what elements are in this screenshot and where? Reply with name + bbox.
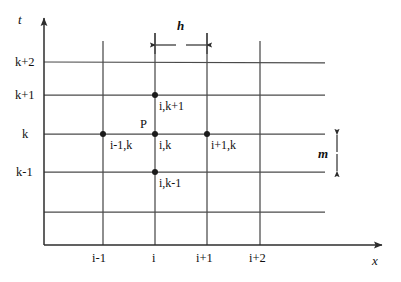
node-label-i-minus-1-k: i-1,k xyxy=(110,139,132,151)
grid-canvas xyxy=(0,0,401,282)
x-tick-i-minus-1: i-1 xyxy=(92,252,106,265)
node-dot-i-minus-1-k xyxy=(100,131,106,137)
node-label-i-plus-1-k: i+1,k xyxy=(211,139,236,151)
node-dot-i-k-plus-1 xyxy=(152,92,158,98)
node-label-i-k: i,k xyxy=(159,139,171,151)
m-dimension-label: m xyxy=(318,147,328,160)
x-axis-label: x xyxy=(372,254,378,267)
x-tick-i-plus-1: i+1 xyxy=(196,252,213,265)
x-tick-i-plus-2: i+2 xyxy=(249,252,266,265)
t-tick-k: k xyxy=(22,128,28,141)
t-tick-k-plus-1: k+1 xyxy=(15,89,35,102)
t-axis-label: t xyxy=(18,13,22,26)
node-label-i-k-plus-1: i,k+1 xyxy=(159,100,184,112)
h-dimension-label: h xyxy=(177,19,184,32)
horizontal-gridlines xyxy=(44,62,325,212)
finite-difference-grid-figure: t x k+2 k+1 k k-1 i-1 i i+1 i+2 i-1,k i,… xyxy=(0,0,401,282)
t-tick-k-plus-2: k+2 xyxy=(15,56,35,69)
t-tick-k-minus-1: k-1 xyxy=(16,166,33,179)
node-dot-i-k-minus-1 xyxy=(152,169,158,175)
x-tick-i: i xyxy=(152,252,155,265)
h-dimension xyxy=(155,33,207,54)
node-dot-i-plus-1-k xyxy=(204,131,210,137)
node-dot-i-k xyxy=(152,131,158,137)
point-p-label: P xyxy=(140,118,147,131)
node-label-i-k-minus-1: i,k-1 xyxy=(159,177,181,189)
